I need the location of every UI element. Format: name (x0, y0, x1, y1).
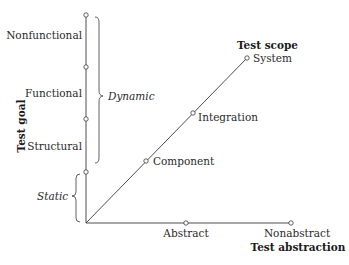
test-dimensions-diagram: Nonfunctional Functional Structural Dyna… (0, 0, 349, 265)
axis-title-test-goal: Test goal (15, 100, 27, 153)
point-structural-static (84, 170, 88, 174)
point-component (144, 159, 148, 163)
label-structural: Structural (27, 140, 82, 152)
test-scope-axis (86, 58, 247, 223)
point-abstract (184, 221, 188, 225)
point-nonfunctional-functional (84, 65, 88, 69)
point-nonabstract (289, 221, 293, 225)
point-functional-structural (84, 117, 88, 121)
label-dynamic: Dynamic (107, 90, 155, 102)
axis-title-test-abstraction: Test abstraction (251, 241, 346, 253)
point-system (245, 56, 249, 60)
point-integration (191, 111, 195, 115)
dynamic-brace (95, 17, 103, 163)
point-top (84, 13, 88, 17)
label-integration: Integration (198, 111, 258, 123)
static-brace (72, 174, 80, 222)
label-nonabstract: Nonabstract (264, 227, 331, 239)
label-abstract: Abstract (162, 227, 209, 239)
axis-title-test-scope: Test scope (237, 39, 298, 51)
label-static: Static (37, 190, 68, 202)
label-nonfunctional: Nonfunctional (6, 29, 82, 41)
label-system: System (253, 52, 292, 64)
label-functional: Functional (25, 87, 83, 99)
label-component: Component (153, 155, 215, 167)
